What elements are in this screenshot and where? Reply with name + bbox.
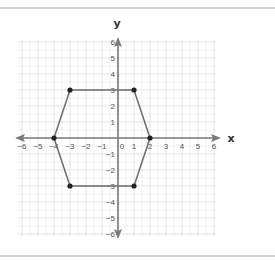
- y-tick-label: 4: [111, 70, 116, 79]
- y-tick-label: 2: [111, 102, 116, 111]
- x-axis-label: x: [227, 132, 234, 145]
- vertex-point: [67, 183, 72, 188]
- x-tick-label: 3: [164, 142, 169, 151]
- y-tick-label: −4: [106, 198, 116, 207]
- x-tick-label: 4: [180, 142, 185, 151]
- x-tick-label: 6: [212, 142, 217, 151]
- y-tick-label: 5: [111, 54, 116, 63]
- x-tick-label: −6: [17, 142, 27, 151]
- y-tick-label: −5: [106, 214, 116, 223]
- y-tick-label: −1: [106, 150, 116, 159]
- y-tick-label: −2: [106, 166, 116, 175]
- vertex-point: [131, 183, 136, 188]
- vertex-point: [51, 135, 56, 140]
- x-tick-label: 0: [120, 142, 125, 151]
- vertex-point: [147, 135, 152, 140]
- x-tick-label: −3: [65, 142, 75, 151]
- x-tick-label: −5: [33, 142, 43, 151]
- x-tick-label: 1: [132, 142, 137, 151]
- vertex-point: [67, 87, 72, 92]
- y-tick-label: 6: [111, 38, 116, 47]
- x-tick-label: −2: [81, 142, 91, 151]
- y-axis-label: y: [113, 17, 120, 30]
- coordinate-plane: xy−6−5−4−3−2−10123456654321−1−2−3−4−5−6: [0, 0, 275, 260]
- vertex-point: [131, 87, 136, 92]
- y-tick-label: 1: [111, 118, 116, 127]
- y-tick-label: −6: [106, 230, 116, 239]
- x-tick-label: 5: [196, 142, 201, 151]
